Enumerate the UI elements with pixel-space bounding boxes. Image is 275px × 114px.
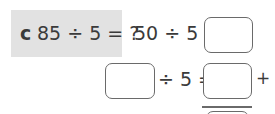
- line1-answer-box[interactable]: [204, 17, 253, 53]
- line2-answer-box[interactable]: [203, 63, 252, 99]
- sum-line: [202, 106, 252, 108]
- plus-sign: +: [256, 68, 270, 88]
- line2-dividend-box[interactable]: [105, 63, 155, 99]
- question-expression: 85 ÷ 5 = ?: [37, 22, 139, 44]
- question-label: c: [20, 22, 31, 44]
- sum-answer-box[interactable]: [206, 111, 249, 114]
